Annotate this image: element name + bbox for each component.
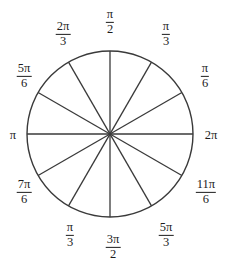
fraction-seven-pi-over-6: 7π 6 xyxy=(17,178,32,206)
value-two-pi: 2π xyxy=(205,129,218,142)
numerator: π xyxy=(201,62,209,77)
label-pi: π xyxy=(10,128,16,141)
value-pi: π xyxy=(10,129,16,142)
fraction-five-pi-over-6: 5π 6 xyxy=(17,62,32,90)
numerator: π xyxy=(66,221,74,236)
denominator: 6 xyxy=(196,193,216,207)
label-two-pi: 2π xyxy=(205,128,218,141)
numerator: 11π xyxy=(196,178,216,193)
numerator: π xyxy=(106,8,114,23)
fraction-pi-over-2: π 2 xyxy=(106,8,114,36)
label-seven-pi-over-6: 7π 6 xyxy=(17,178,32,206)
label-pi-over-2: π 2 xyxy=(106,8,114,36)
fraction-pi-over-6: π 6 xyxy=(201,62,209,90)
spokes-group xyxy=(27,51,193,217)
numerator: 7π xyxy=(17,178,32,193)
fraction-three-pi-over-2: 3π 2 xyxy=(106,233,121,261)
denominator: 3 xyxy=(56,35,71,49)
label-pi-over-6: π 6 xyxy=(201,62,209,90)
label-two-pi-over-3: 2π 3 xyxy=(56,20,71,48)
denominator: 3 xyxy=(159,236,174,250)
fraction-five-pi-over-3: 5π 3 xyxy=(159,221,174,249)
denominator: 6 xyxy=(17,193,32,207)
numerator: 5π xyxy=(159,221,174,236)
label-three-pi-over-2: 3π 2 xyxy=(106,233,121,261)
label-bottom-left-pi-over-3: π 3 xyxy=(66,221,74,249)
radian-unit-circle-figure: π 2 π 3 π 6 2π 11π 6 5π 3 3π 2 xyxy=(0,0,230,272)
fraction-bottom-left-pi-over-3: π 3 xyxy=(66,221,74,249)
denominator: 2 xyxy=(106,23,114,37)
denominator: 2 xyxy=(106,248,121,262)
label-eleven-pi-over-6: 11π 6 xyxy=(196,178,216,206)
fraction-pi-over-3: π 3 xyxy=(162,20,170,48)
denominator: 3 xyxy=(162,35,170,49)
denominator: 6 xyxy=(17,77,32,91)
numerator: π xyxy=(162,20,170,35)
label-pi-over-3: π 3 xyxy=(162,20,170,48)
denominator: 3 xyxy=(66,236,74,250)
fraction-eleven-pi-over-6: 11π 6 xyxy=(196,178,216,206)
numerator: 5π xyxy=(17,62,32,77)
numerator: 2π xyxy=(56,20,71,35)
denominator: 6 xyxy=(201,77,209,91)
fraction-two-pi-over-3: 2π 3 xyxy=(56,20,71,48)
label-five-pi-over-3: 5π 3 xyxy=(159,221,174,249)
label-five-pi-over-6: 5π 6 xyxy=(17,62,32,90)
numerator: 3π xyxy=(106,233,121,248)
